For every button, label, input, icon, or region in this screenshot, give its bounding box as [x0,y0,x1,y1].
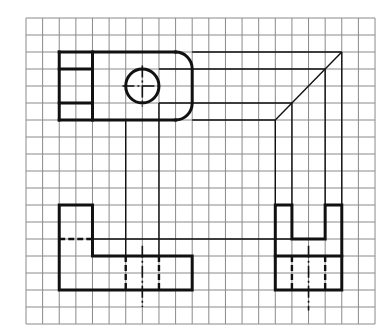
graph-paper-grid [26,18,375,324]
technical-drawing [0,0,388,331]
